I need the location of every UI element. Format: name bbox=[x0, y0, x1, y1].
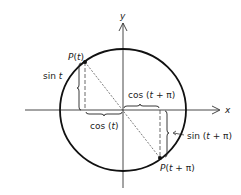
cos-t-brace bbox=[86, 112, 122, 116]
sin-t-pi-brace bbox=[165, 111, 169, 157]
x-axis-label: x bbox=[224, 105, 231, 115]
y-axis bbox=[119, 23, 127, 188]
cos-t-pi-label: cos (t + π) bbox=[128, 90, 175, 100]
p-t-pi-label: P(t + π) bbox=[160, 163, 195, 173]
unit-circle-figure: x y P(t) P(t + π) sin t cos (t) cos (t +… bbox=[0, 0, 241, 195]
p-t-label: P(t) bbox=[68, 52, 84, 62]
cos-t-pi-brace bbox=[124, 104, 159, 108]
sin-t-label: sin t bbox=[43, 71, 63, 81]
cos-t-label: cos (t) bbox=[90, 121, 119, 131]
point-p-t-pi bbox=[158, 156, 162, 160]
y-axis-label: y bbox=[119, 11, 126, 21]
sin-t-brace bbox=[77, 63, 81, 110]
sin-t-pi-label: sin (t + π) bbox=[187, 131, 232, 141]
